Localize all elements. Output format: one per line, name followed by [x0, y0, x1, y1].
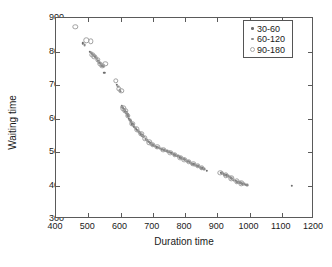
- legend-item[interactable]: 90-180: [248, 45, 285, 55]
- legend-label: 90-180: [257, 45, 285, 55]
- x-axis-tick: [217, 18, 218, 22]
- y-axis-tick: [56, 85, 60, 86]
- x-axis-tick-label: 500: [80, 221, 95, 231]
- x-axis-tick-label: 900: [209, 221, 224, 231]
- data-point: [103, 71, 105, 73]
- y-axis-tick: [56, 186, 60, 187]
- y-axis-tick: [56, 52, 60, 53]
- data-point: [246, 184, 249, 187]
- y-axis-tick: [56, 119, 60, 120]
- scatter-plot-figure: Waiting time 300400500600700800900 40050…: [0, 0, 332, 267]
- x-axis-tick-label: 1100: [271, 221, 290, 231]
- legend-item[interactable]: 30-60: [248, 24, 285, 34]
- x-axis-tick: [153, 213, 154, 217]
- x-axis-tick: [88, 213, 89, 217]
- x-axis-tick-label: 1200: [303, 221, 323, 231]
- x-axis-tick: [185, 213, 186, 217]
- y-axis-tick: [308, 186, 312, 187]
- legend-label: 30-60: [257, 24, 280, 34]
- data-point: [88, 38, 93, 43]
- y-axis-tick: [308, 119, 312, 120]
- x-axis-tick-label: 700: [144, 221, 159, 231]
- data-point: [291, 184, 293, 186]
- x-axis-tick: [121, 213, 122, 217]
- x-axis-tick: [282, 213, 283, 217]
- x-axis-tick: [88, 18, 89, 22]
- y-axis-tick: [56, 152, 60, 153]
- legend-marker-60-120-icon: [248, 38, 257, 41]
- legend-marker-90-180-icon: [248, 47, 257, 52]
- data-point: [103, 61, 108, 66]
- data-point: [118, 88, 123, 93]
- data-point: [113, 78, 118, 83]
- legend-item[interactable]: 60-120: [248, 34, 285, 44]
- x-axis-tick: [185, 18, 186, 22]
- x-axis-tick: [217, 213, 218, 217]
- x-axis-tick: [250, 213, 251, 217]
- x-axis-tick: [153, 18, 154, 22]
- y-axis-tick: [308, 85, 312, 86]
- x-axis-tick-label: 400: [47, 221, 62, 231]
- y-axis-tick: [308, 52, 312, 53]
- x-axis-title: Duration time: [55, 236, 313, 247]
- data-point: [73, 24, 78, 29]
- data-point: [206, 170, 208, 172]
- x-axis-tick: [121, 18, 122, 22]
- legend: 30-60 60-120 90-180: [243, 20, 293, 58]
- legend-marker-30-60-icon: [248, 27, 257, 29]
- data-point: [83, 43, 86, 46]
- x-axis-tick-label: 600: [112, 221, 127, 231]
- y-axis-tick: [308, 152, 312, 153]
- y-axis-title: Waiting time: [7, 78, 18, 168]
- x-axis-tick-label: 800: [176, 221, 191, 231]
- legend-label: 60-120: [257, 34, 285, 44]
- x-axis-tick-label: 1000: [238, 221, 258, 231]
